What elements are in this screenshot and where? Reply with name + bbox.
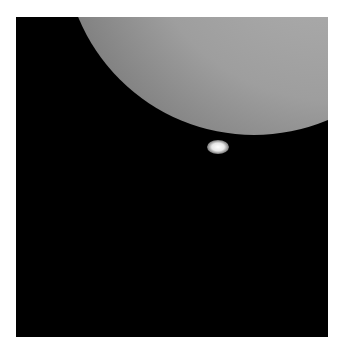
photo-frame xyxy=(16,17,328,337)
bright-spot xyxy=(207,140,229,154)
illuminated-disk xyxy=(64,17,328,135)
